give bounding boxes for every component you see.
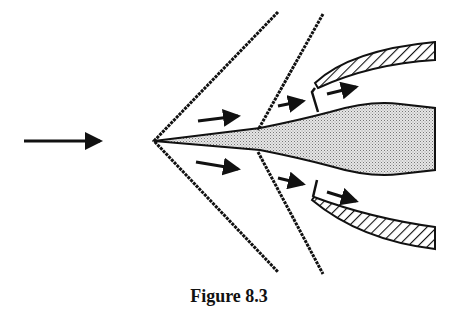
lower-cowl-lip-shock (313, 180, 317, 197)
upper-cowl-lip-shock (312, 88, 318, 112)
oblique-shock-2-lower (258, 152, 323, 274)
flow-arrow-lower-2 (278, 178, 303, 184)
flow-arrow-lower-1 (196, 162, 238, 169)
oblique-shock-2 (258, 14, 323, 130)
lower-cowl (312, 197, 435, 249)
inlet-diagram (0, 0, 458, 313)
flow-arrow-upper-3 (327, 87, 356, 94)
flow-arrow-lower-3 (327, 192, 356, 201)
flow-arrow-upper-2 (278, 101, 303, 106)
upper-cowl (315, 42, 435, 88)
centerbody-spike (154, 103, 435, 175)
flow-arrow-upper-1 (198, 116, 238, 121)
figure-caption: Figure 8.3 (0, 286, 458, 307)
